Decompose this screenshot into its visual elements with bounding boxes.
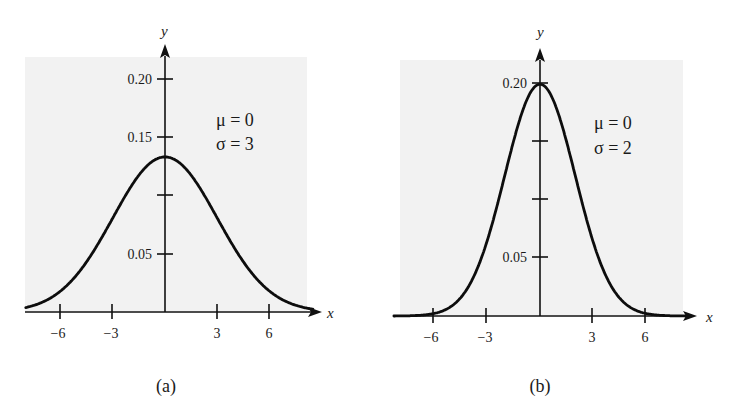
panel-a-x-axis-label: x: [326, 305, 334, 321]
panel-b-x-tick-label: 6: [642, 330, 649, 345]
panel-b-legend-sigma: σ = 2: [594, 138, 632, 158]
panel-b-caption: (b): [530, 376, 551, 397]
panel-a-x-tick-label: 3: [214, 326, 221, 341]
panel-a-legend-sigma: σ = 3: [216, 134, 254, 154]
panel-a-legend-mu: μ = 0: [216, 110, 254, 130]
panel-b: x y −6 −3 3 6 0.05 0.20 μ = 0 σ =: [394, 24, 713, 397]
panel-a: x y −6 −3 3 6 0.05 0.15 0.20 μ =: [25, 23, 334, 397]
panel-a-y-axis-label: y: [159, 23, 168, 39]
panel-b-shaded-background: [400, 60, 683, 315]
panel-a-x-tick-label: −3: [104, 326, 119, 341]
panel-a-y-tick-label: 0.15: [128, 130, 153, 145]
panel-a-shaded-background: [25, 57, 307, 311]
panel-b-x-axis-label: x: [705, 309, 713, 325]
figure: x y −6 −3 3 6 0.05 0.15 0.20 μ =: [0, 0, 748, 415]
panel-b-x-tick-label: −3: [478, 330, 493, 345]
panel-a-y-axis-arrow-icon: [160, 44, 170, 58]
panel-b-x-tick-label: −6: [424, 330, 439, 345]
panel-a-y-tick-label: 0.05: [128, 247, 153, 262]
panel-a-caption: (a): [156, 376, 176, 397]
panel-b-y-tick-label: 0.20: [503, 76, 528, 91]
panel-b-y-tick-label: 0.05: [503, 250, 528, 265]
panel-b-x-tick-label: 3: [589, 330, 596, 345]
panel-a-x-tick-label: 6: [266, 326, 273, 341]
panel-b-legend-mu: μ = 0: [594, 113, 632, 133]
panel-a-y-tick-label: 0.20: [128, 72, 153, 87]
panel-b-y-axis-arrow-icon: [535, 48, 545, 62]
panel-b-y-axis-label: y: [535, 24, 544, 40]
panel-a-x-tick-label: −6: [51, 326, 66, 341]
